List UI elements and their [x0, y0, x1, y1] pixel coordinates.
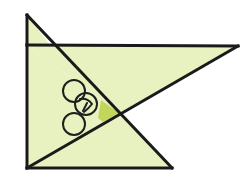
geometry-diagram	[0, 0, 249, 189]
top-horizontal-edge	[27, 45, 238, 46]
figure-stage	[0, 0, 249, 189]
